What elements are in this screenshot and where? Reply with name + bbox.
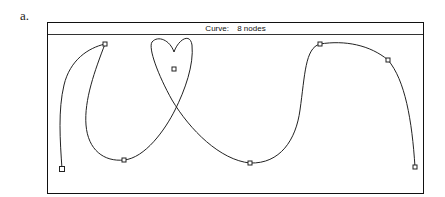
node-handles[interactable] xyxy=(60,42,418,172)
node-handle[interactable] xyxy=(386,58,390,62)
node-handle[interactable] xyxy=(172,67,176,71)
node-handle[interactable] xyxy=(413,165,417,169)
spline-curve[interactable] xyxy=(60,38,415,169)
node-handle[interactable] xyxy=(318,42,322,46)
node-handle[interactable] xyxy=(103,42,107,46)
node-handle[interactable] xyxy=(122,158,126,162)
node-handle[interactable] xyxy=(248,161,252,165)
node-handle[interactable] xyxy=(60,167,65,172)
curve-canvas[interactable] xyxy=(0,0,445,197)
